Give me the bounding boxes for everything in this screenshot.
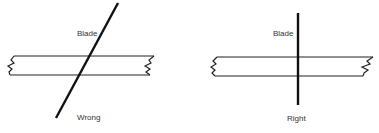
- diagram-canvas: Blade Wrong Blade Right: [0, 0, 379, 133]
- blade-slanted: [56, 3, 118, 118]
- caption-wrong: Wrong: [77, 113, 100, 122]
- blade-label-right: Blade: [273, 29, 294, 38]
- blade-label-left: Blade: [77, 29, 98, 38]
- board-right: [211, 57, 373, 76]
- panel-wrong: Blade Wrong: [8, 3, 154, 122]
- caption-right: Right: [287, 114, 306, 123]
- panel-right: Blade Right: [211, 13, 373, 123]
